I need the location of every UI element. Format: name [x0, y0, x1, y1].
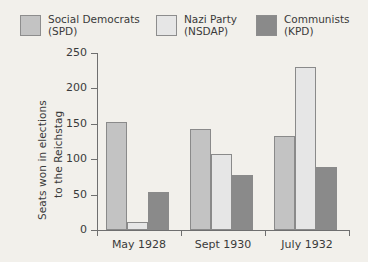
legend-label-kpd-abbr: (KPD)	[284, 26, 350, 38]
x-axis-label: Sept 1930	[181, 238, 265, 251]
legend-item-spd: Social Democrats (SPD)	[20, 14, 140, 37]
x-axis-label: July 1932	[265, 238, 349, 251]
legend-swatch-spd	[20, 15, 41, 36]
bar	[148, 192, 169, 230]
y-axis-tick-label: 0	[80, 224, 87, 235]
y-axis-tick-label: 200	[66, 82, 87, 93]
plot-area: Seats won in elections to the Reichstag …	[0, 48, 368, 262]
x-axis-tick	[97, 230, 98, 236]
legend-item-kpd: Communists (KPD)	[256, 14, 350, 37]
y-axis-title-line1: Seats won in elections	[36, 100, 48, 220]
y-axis-title: Seats won in elections to the Reichstag	[22, 72, 62, 222]
legend-label-nsdap: Nazi Party (NSDAP)	[184, 14, 237, 37]
legend-label-kpd: Communists (KPD)	[284, 14, 350, 37]
legend-swatch-nsdap	[156, 15, 177, 36]
legend-label-kpd-name: Communists	[284, 14, 350, 26]
bar	[232, 175, 253, 230]
x-axis-tick	[349, 230, 350, 236]
legend-label-nsdap-name: Nazi Party	[184, 14, 237, 26]
bar	[316, 167, 337, 230]
bars-layer	[97, 53, 349, 230]
bar-group	[265, 53, 349, 230]
bar	[274, 136, 295, 230]
bar	[295, 67, 316, 230]
y-axis-tick-label: 100	[66, 153, 87, 164]
bar-group	[181, 53, 265, 230]
x-axis-label: May 1928	[97, 238, 181, 251]
y-axis-tick-label: 50	[73, 189, 87, 200]
legend-item-nsdap: Nazi Party (NSDAP)	[156, 14, 237, 37]
bar	[211, 154, 232, 230]
legend-label-spd-abbr: (SPD)	[48, 26, 140, 38]
bar	[190, 129, 211, 230]
bar	[127, 222, 148, 230]
legend-label-spd-name: Social Democrats	[48, 14, 140, 26]
y-axis-tick-label: 150	[66, 118, 87, 129]
legend-swatch-kpd	[256, 15, 277, 36]
x-axis-tick	[181, 230, 182, 236]
legend-label-nsdap-abbr: (NSDAP)	[184, 26, 237, 38]
bar-group	[97, 53, 181, 230]
bar-chart: Social Democrats (SPD) Nazi Party (NSDAP…	[0, 0, 368, 262]
y-axis-title-line2: to the Reichstag	[52, 111, 64, 198]
bar	[106, 122, 127, 230]
x-axis-line	[97, 230, 349, 231]
legend-label-spd: Social Democrats (SPD)	[48, 14, 140, 37]
y-axis-tick-label: 250	[66, 47, 87, 58]
x-axis-tick	[265, 230, 266, 236]
